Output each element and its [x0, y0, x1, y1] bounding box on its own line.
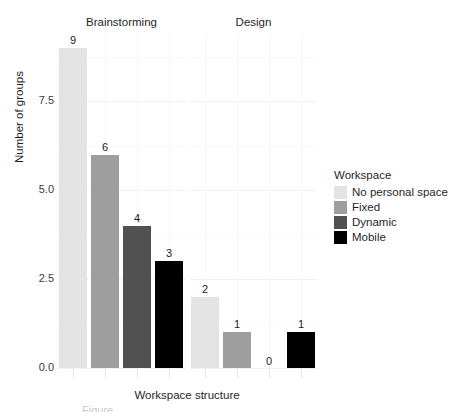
gridline-y-7_5 [190, 101, 317, 102]
bar-brainstorming-fixed[interactable] [91, 155, 119, 368]
x-axis-tick [269, 369, 270, 378]
facet-strip-design: Design [190, 14, 317, 30]
bar-label-brainstorming-fixed: 6 [91, 141, 119, 154]
facet-strip-brainstorming: Brainstorming [57, 14, 186, 30]
x-axis-tick [237, 369, 238, 378]
bar-design-no-personal-space[interactable] [191, 297, 219, 368]
bar-brainstorming-mobile[interactable] [155, 261, 183, 368]
x-axis-tick [137, 369, 138, 378]
legend: Workspace No personal space Fixed Dynami… [334, 168, 460, 245]
panel-brainstorming: 9 6 4 3 [57, 34, 186, 368]
y-tick-label: 5.0 [18, 183, 54, 196]
caption-artifact: Figure [82, 404, 113, 412]
legend-item-fixed[interactable]: Fixed [334, 200, 460, 214]
legend-swatch-dynamic [334, 216, 347, 229]
y-tick-label: 0.0 [18, 361, 54, 374]
gridline-y-minor [190, 146, 317, 147]
y-tick-label: 2.5 [18, 272, 54, 285]
bar-label-design-fixed: 1 [223, 318, 251, 331]
legend-item-no-personal-space[interactable]: No personal space [334, 185, 460, 199]
legend-swatch-fixed [334, 201, 347, 214]
legend-label-fixed: Fixed [352, 201, 380, 214]
gridline-y-5 [190, 190, 317, 191]
legend-swatch-no-personal-space [334, 186, 347, 199]
gridline-y-2_5 [190, 279, 317, 280]
legend-item-mobile[interactable]: Mobile [334, 230, 460, 244]
bar-brainstorming-dynamic[interactable] [123, 226, 151, 368]
bar-label-brainstorming-mobile: 3 [155, 247, 183, 260]
gridline-y-minor [190, 235, 317, 236]
bar-design-mobile[interactable] [287, 332, 315, 368]
legend-label-dynamic: Dynamic [352, 216, 397, 229]
x-axis-title: Workspace structure [57, 388, 317, 403]
legend-swatch-mobile [334, 231, 347, 244]
gridline-x [269, 34, 270, 368]
gridline-y-0 [57, 368, 186, 369]
bar-chart-figure: Brainstorming Design Number of groups 0.… [0, 0, 464, 412]
bar-label-design-mobile: 1 [287, 318, 315, 331]
bar-design-fixed[interactable] [223, 332, 251, 368]
panel-design: 2 1 0 1 [190, 34, 317, 368]
bar-label-design-dynamic: 0 [255, 355, 283, 368]
gridline-y-0 [190, 368, 317, 369]
legend-title: Workspace [334, 168, 460, 183]
bar-label-brainstorming-dynamic: 4 [123, 212, 151, 225]
x-axis-tick [169, 369, 170, 378]
y-axis-tick-labels: 0.0 2.5 5.0 7.5 [8, 0, 54, 412]
legend-label-mobile: Mobile [352, 231, 386, 244]
legend-item-dynamic[interactable]: Dynamic [334, 215, 460, 229]
x-axis-tick [205, 369, 206, 378]
bar-label-design-no-personal-space: 2 [191, 283, 219, 296]
bar-label-brainstorming-no-personal-space: 9 [59, 34, 87, 47]
bar-brainstorming-no-personal-space[interactable] [59, 48, 87, 368]
legend-label-no-personal-space: No personal space [352, 186, 448, 199]
y-tick-label: 7.5 [18, 94, 54, 107]
gridline-y-minor [190, 57, 317, 58]
x-axis-tick [73, 369, 74, 378]
x-axis-tick [301, 369, 302, 378]
x-axis-tick [105, 369, 106, 378]
